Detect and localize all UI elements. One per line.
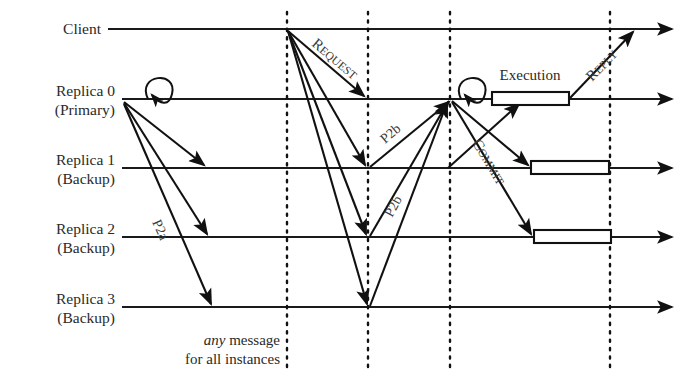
request-rest: EQUEST (317, 44, 359, 83)
message-group-p2b: P2b P2b (370, 102, 449, 306)
note-line-1: any message (204, 332, 281, 348)
sequence-diagram-root: Client Replica 0 (Primary) Replica 1 (Ba… (0, 0, 696, 383)
note-emphasis: any (204, 332, 226, 348)
message-label-p2b-lower: P2b (381, 193, 404, 219)
execution-box-label: Execution (500, 67, 561, 83)
execution-boxes: Execution (492, 67, 611, 243)
lifeline-label-replica2: Replica 2 (56, 220, 115, 237)
lifeline-sublabel-replica2: (Backup) (57, 239, 115, 257)
any-message-note: any message for all instances (185, 332, 280, 367)
execution-box-replica1 (531, 161, 609, 174)
lifeline-label-replica1: Replica 1 (56, 151, 115, 168)
sequence-diagram-canvas: Client Replica 0 (Primary) Replica 1 (Ba… (0, 0, 696, 383)
svg-text:REQUEST: REQUEST (309, 35, 361, 82)
lifeline-labels: Client Replica 0 (Primary) Replica 1 (Ba… (55, 20, 116, 327)
lifeline-label-replica0: Replica 0 (56, 82, 115, 99)
note-line-2: for all instances (185, 351, 280, 367)
execution-box-replica2 (534, 230, 611, 243)
lifeline-sublabel-replica0: (Primary) (55, 101, 115, 119)
lifeline-label-replica3: Replica 3 (56, 290, 115, 307)
message-group-reply: REPLY (570, 32, 633, 98)
commit-rest: OMMIT (475, 146, 507, 187)
message-group-p2a: P2a (124, 102, 211, 304)
reply-rest: EPLY (592, 47, 621, 76)
lifeline-label-client: Client (63, 20, 102, 37)
message-arrow-p2a-3 (124, 104, 211, 304)
lifeline-sublabel-replica1: (Backup) (57, 170, 115, 188)
message-label-p2a: P2a (149, 217, 172, 243)
message-label-request: REQUEST (309, 35, 361, 82)
lifeline-sublabel-replica3: (Backup) (57, 309, 115, 327)
execution-box-replica0 (492, 92, 569, 105)
note-line1-rest: message (225, 332, 280, 348)
